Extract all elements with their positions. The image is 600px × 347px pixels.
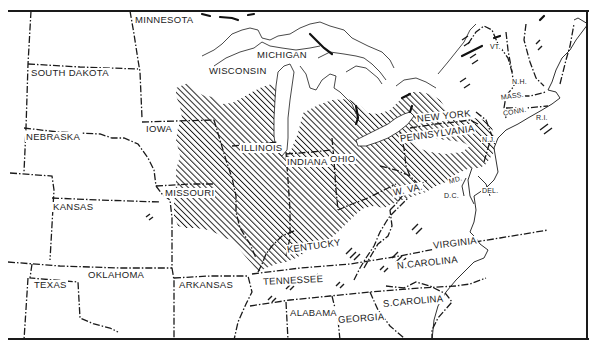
label-ohio: OHIO [329,154,356,164]
label-michigan: MICHIGAN [256,50,308,60]
label-south-dakota: SOUTH DAKOTA [30,68,110,78]
label-indiana: INDIANA [286,157,329,167]
label-new-jersey: N.J. [481,136,496,143]
label-texas: TEXAS [33,280,68,290]
label-dc: D.C. [443,192,460,199]
label-new-hampshire: N.H. [511,78,528,85]
label-missouri: MISSOURI [164,188,215,198]
label-nebraska: NEBRASKA [25,132,81,142]
label-minnesota: MINNESOTA [134,15,194,25]
label-vermont: VT. [489,43,502,50]
label-delaware: DEL. [481,187,499,194]
label-illinois: ILLINOIS [240,143,283,153]
label-iowa: IOWA [145,124,173,134]
label-kansas: KANSAS [52,202,94,212]
label-alabama: ALABAMA [289,308,338,318]
label-wisconsin: WISCONSIN [208,66,268,76]
label-arkansas: ARKANSAS [178,280,234,290]
label-rhode-island: R.I. [535,114,549,121]
label-oklahoma: OKLAHOMA [87,270,145,280]
